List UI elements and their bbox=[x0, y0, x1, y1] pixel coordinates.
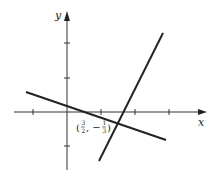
svg-text:, −: , − bbox=[86, 122, 101, 133]
steep-line bbox=[99, 33, 163, 161]
svg-text:2: 2 bbox=[82, 127, 86, 134]
y-axis-arrow-icon bbox=[64, 11, 70, 21]
svg-text:1: 1 bbox=[103, 119, 107, 126]
svg-text:3: 3 bbox=[103, 127, 107, 134]
svg-text:(: ( bbox=[76, 122, 80, 133]
y-axis bbox=[64, 11, 70, 170]
svg-text:): ) bbox=[107, 122, 111, 133]
y-axis-label: y bbox=[54, 9, 62, 22]
x-axis-arrow-icon bbox=[198, 109, 207, 115]
x-axis-label: x bbox=[198, 116, 205, 129]
coordinate-plane-figure: y x ( 3 2 , − 1 3 ) bbox=[0, 0, 217, 179]
svg-text:3: 3 bbox=[82, 119, 86, 126]
x-axis bbox=[14, 109, 207, 115]
intersection-label: ( 3 2 , − 1 3 ) bbox=[76, 119, 111, 134]
